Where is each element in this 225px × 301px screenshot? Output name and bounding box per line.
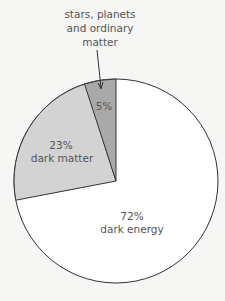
callout-line-3: matter xyxy=(82,36,118,48)
ordinary-matter-pct: 5% xyxy=(96,100,113,112)
dark-matter-label: dark matter xyxy=(31,152,94,164)
callout-line-2: and ordinary xyxy=(67,22,134,34)
dark-energy-label: dark energy xyxy=(100,223,163,235)
callout-line-1: stars, planets xyxy=(64,8,135,20)
dark-matter-pct: 23% xyxy=(49,139,72,151)
dark-energy-pct: 72% xyxy=(120,210,143,222)
pie-chart: stars, planets and ordinary matter 5% 23… xyxy=(0,0,225,301)
